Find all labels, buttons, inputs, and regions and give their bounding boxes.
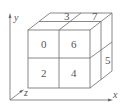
z-axis-label: z (23, 87, 28, 98)
cell-label-6: 6 (71, 38, 77, 50)
z-axis (10, 91, 22, 100)
x-axis-label: x (112, 89, 118, 100)
cell-label-3: 3 (64, 10, 70, 22)
cell-label-0: 0 (41, 38, 47, 50)
y-axis-label: y (13, 12, 19, 23)
cell-labels: 0 6 2 4 3 7 5 (41, 10, 111, 79)
y-axis-arrow-icon (9, 13, 12, 18)
cell-label-7: 7 (92, 10, 98, 22)
cube-diagram: y x z 0 6 2 4 3 7 5 (0, 0, 124, 106)
cell-label-4: 4 (71, 67, 77, 79)
cell-label-2: 2 (41, 67, 47, 79)
cell-label-5: 5 (105, 54, 111, 66)
